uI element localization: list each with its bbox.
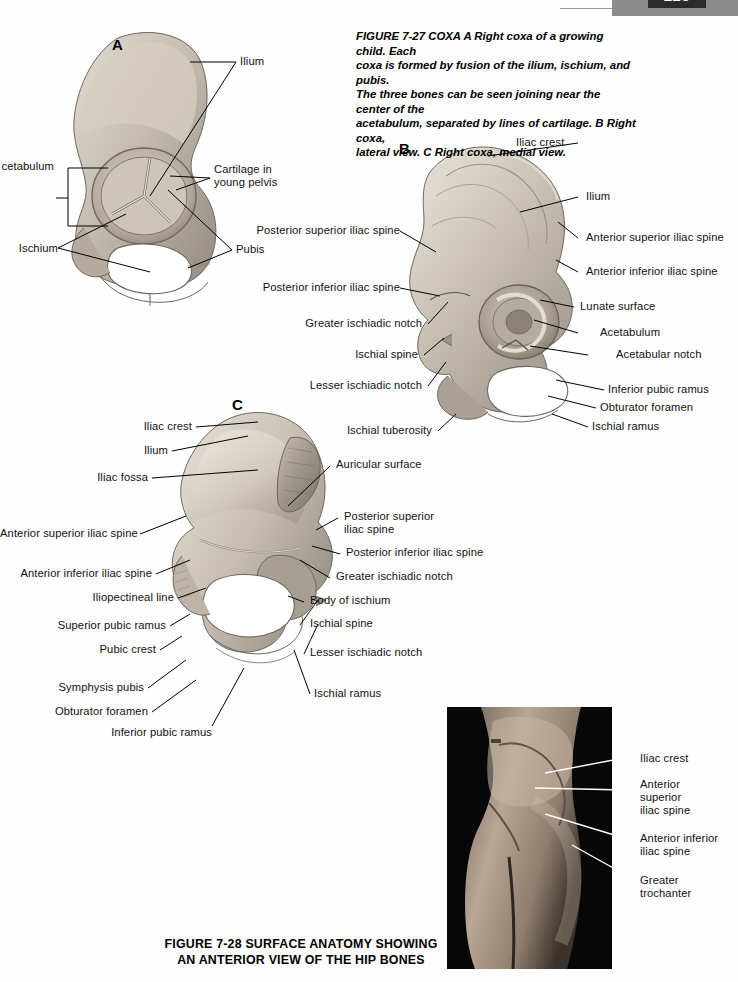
panel-b-artwork — [410, 147, 573, 422]
panel-c-letter: C — [232, 396, 243, 413]
label-b-lesser-ischiadic-notch: Lesser ischiadic notch — [292, 379, 422, 392]
label-b-ilium: Ilium — [586, 190, 610, 203]
label-a-acetabulum: cetabulum — [0, 160, 54, 173]
label-c-posterior-inferior-iliac-spine: Posterior inferior iliac spine — [346, 546, 483, 559]
label-b-anterior-inferior-iliac-spine: Anterior inferior iliac spine — [586, 265, 718, 278]
figure-27-caption: FIGURE 7-27 COXA A Right coxa of a growi… — [356, 29, 636, 160]
caption-line: FIGURE 7-28 SURFACE ANATOMY SHOWING — [148, 936, 454, 952]
label-b-obturator-foramen: Obturator foramen — [600, 401, 693, 414]
label-photo-anterior-superior-iliac-spine: Anterior superior iliac spine — [640, 778, 690, 817]
label-c-ischial-spine: Ischial spine — [310, 617, 373, 630]
label-c-symphysis-pubis: Symphysis pubis — [50, 681, 144, 694]
panel-c-artwork — [172, 412, 332, 662]
label-b-posterior-superior-iliac-spine: Posterior superior iliac spine — [240, 224, 400, 237]
label-b-ischial-tuberosity: Ischial tuberosity — [322, 424, 432, 437]
label-photo-anterior-inferior-iliac-spine: Anterior inferior iliac spine — [640, 832, 718, 858]
caption-line: lateral view. C Right coxa, medial view. — [356, 145, 636, 160]
label-c-superior-pubic-ramus: Superior pubic ramus — [54, 619, 166, 632]
surface-anatomy-photo — [447, 707, 612, 969]
photo-content — [447, 707, 612, 969]
label-b-anterior-superior-iliac-spine: Anterior superior iliac spine — [586, 231, 724, 244]
panel-a-artwork: meik illustr — [72, 32, 216, 306]
label-b-iliac-crest: Iliac crest — [516, 136, 564, 149]
label-c-iliac-crest: Iliac crest — [96, 420, 192, 433]
label-b-greater-ischiadic-notch: Greater ischiadic notch — [288, 317, 422, 330]
label-c-greater-ischiadic-notch: Greater ischiadic notch — [336, 570, 453, 583]
label-b-ischial-spine: Ischial spine — [328, 348, 418, 361]
label-c-lesser-ischiadic-notch: Lesser ischiadic notch — [310, 646, 422, 659]
panel-b-letter: B — [399, 140, 410, 157]
label-c-posterior-superior-iliac-spine: Posterior superior iliac spine — [344, 510, 434, 536]
label-c-anterior-inferior-iliac-spine: Anterior inferior iliac spine — [14, 567, 152, 580]
label-c-iliac-fossa: Iliac fossa — [62, 471, 148, 484]
label-c-anterior-superior-iliac-spine: Anterior superior iliac spine — [0, 527, 136, 540]
label-b-posterior-inferior-iliac-spine: Posterior inferior iliac spine — [240, 281, 400, 294]
caption-line: The three bones can be seen joining near… — [356, 87, 636, 116]
label-c-inferior-pubic-ramus: Inferior pubic ramus — [108, 726, 212, 739]
label-c-pubic-crest: Pubic crest — [82, 643, 156, 656]
label-photo-iliac-crest: Iliac crest — [640, 752, 688, 765]
label-c-iliopectineal-line: Iliopectineal line — [78, 591, 174, 604]
panel-a-letter: A — [112, 36, 123, 53]
label-b-inferior-pubic-ramus: Inferior pubic ramus — [608, 383, 709, 396]
label-a-ischium: Ischium — [0, 242, 58, 255]
label-c-ilium: Ilium — [96, 444, 168, 457]
label-c-ischial-ramus: Ischial ramus — [314, 687, 381, 700]
label-a-cartilage: Cartilage in young pelvis — [214, 163, 277, 189]
label-b-ischial-ramus: Ischial ramus — [592, 420, 659, 433]
caption-line: FIGURE 7-27 COXA A Right coxa of a growi… — [356, 29, 636, 58]
figure-28-caption: FIGURE 7-28 SURFACE ANATOMY SHOWING AN A… — [148, 936, 454, 968]
label-a-pubis: Pubis — [236, 243, 265, 256]
label-b-lunate-surface: Lunate surface — [580, 300, 655, 313]
label-b-acetabulum: Acetabulum — [600, 326, 660, 339]
label-c-body-of-ischium: Body of ischium — [310, 594, 390, 607]
caption-line: coxa is formed by fusion of the ilium, i… — [356, 58, 636, 87]
label-c-obturator-foramen: Obturator foramen — [44, 705, 148, 718]
caption-line: acetabulum, separated by lines of cartil… — [356, 116, 636, 145]
label-b-acetabular-notch: Acetabular notch — [616, 348, 702, 361]
label-c-auricular-surface: Auricular surface — [336, 458, 422, 471]
caption-line: AN ANTERIOR VIEW OF THE HIP BONES — [148, 952, 454, 968]
label-a-ilium: Ilium — [240, 55, 264, 68]
label-photo-greater-trochanter: Greater trochanter — [640, 874, 691, 900]
textbook-page: 225 — [0, 0, 738, 982]
